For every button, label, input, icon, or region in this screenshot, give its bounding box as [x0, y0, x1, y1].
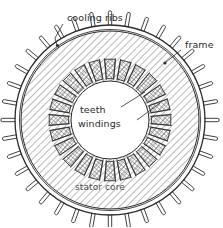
- cooling-rib: [108, 215, 111, 228]
- cooling-rib: [7, 151, 21, 159]
- leader-dot-frame: [163, 61, 166, 64]
- label-teeth: teeth: [80, 104, 106, 115]
- cooling-rib: [198, 151, 212, 159]
- cooling-rib: [7, 82, 21, 90]
- winding-slot: [105, 161, 116, 180]
- cooling-rib: [125, 12, 131, 27]
- leader-dot-cooling-ribs: [56, 44, 59, 47]
- label-stator-core: stator core: [75, 182, 125, 192]
- cooling-rib: [198, 82, 212, 90]
- cooling-rib: [1, 118, 16, 121]
- winding-slot: [151, 115, 170, 126]
- diagram-canvas: cooling ribs frame teeth windings stator…: [0, 0, 223, 227]
- label-frame: frame: [185, 39, 214, 50]
- cooling-rib: [141, 208, 149, 222]
- cooling-rib: [205, 118, 220, 121]
- cooling-rib: [90, 213, 96, 227]
- cooling-rib: [2, 135, 17, 141]
- label-cooling-ribs: cooling ribs: [67, 12, 123, 23]
- cooling-rib: [203, 135, 218, 141]
- cooling-rib: [125, 213, 131, 227]
- winding-slot: [105, 59, 116, 78]
- cooling-rib: [203, 100, 218, 106]
- label-windings: windings: [78, 118, 121, 129]
- cooling-rib: [72, 208, 80, 222]
- cooling-rib: [141, 17, 149, 31]
- winding-slot: [49, 115, 68, 126]
- stator-cross-section-figure: cooling ribs frame teeth windings stator…: [0, 0, 223, 227]
- cooling-rib: [2, 100, 17, 106]
